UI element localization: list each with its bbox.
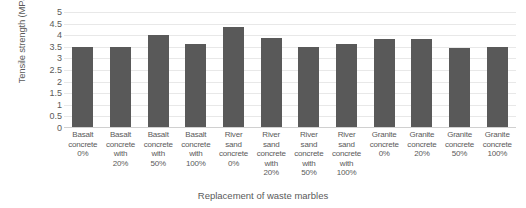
x-axis-category-line: River <box>290 130 328 140</box>
bar[interactable] <box>487 47 508 128</box>
x-axis-baseline <box>64 127 516 128</box>
y-axis-tick-label: 4.5 <box>36 19 62 28</box>
x-axis-category-line: 20% <box>252 168 290 178</box>
y-axis-tick-label: 3.5 <box>36 42 62 51</box>
x-axis-category-line: concrete <box>290 149 328 159</box>
bar-slot <box>441 12 479 128</box>
bar[interactable] <box>336 44 357 128</box>
x-axis-category-line: with <box>102 149 140 159</box>
x-axis-category-line: concrete <box>403 140 441 150</box>
bar[interactable] <box>110 47 131 128</box>
bar-slot <box>177 12 215 128</box>
x-axis-category-line: sand <box>215 140 253 150</box>
bar[interactable] <box>298 47 319 128</box>
tensile-strength-bar-chart: Tensile strength (MPa) 54.543.532.521.51… <box>0 0 526 208</box>
x-axis-category-line: concrete <box>139 140 177 150</box>
x-axis-category-line: 50% <box>139 159 177 169</box>
x-axis-category-line: concrete <box>215 149 253 159</box>
x-axis-category-line: with <box>290 159 328 169</box>
bar-slot <box>252 12 290 128</box>
x-axis-category-line: 50% <box>290 168 328 178</box>
x-axis-category-label: Basaltconcretewith20% <box>102 130 140 188</box>
bar[interactable] <box>223 27 244 128</box>
x-axis-category-line: 100% <box>478 149 516 159</box>
x-axis-category-line: 0% <box>64 149 102 159</box>
bar[interactable] <box>261 38 282 128</box>
x-axis-category-line: Granite <box>441 130 479 140</box>
bar-slot <box>64 12 102 128</box>
x-axis-category-line: concrete <box>328 149 366 159</box>
x-axis-category-label: Graniteconcrete100% <box>478 130 516 188</box>
bar-slot <box>215 12 253 128</box>
x-axis-category-label: Riversandconcretewith50% <box>290 130 328 188</box>
x-axis-category-line: with <box>177 149 215 159</box>
x-axis-category-line: concrete <box>102 140 140 150</box>
x-axis-category-line: sand <box>328 140 366 150</box>
x-axis-category-label: Riversandconcretewith100% <box>328 130 366 188</box>
bar-slot <box>102 12 140 128</box>
bar[interactable] <box>411 39 432 128</box>
x-axis-category-line: concrete <box>441 140 479 150</box>
bar[interactable] <box>374 39 395 128</box>
bar[interactable] <box>449 48 470 128</box>
y-axis-tick-label: 5 <box>36 8 62 17</box>
x-axis-category-line: concrete <box>365 140 403 150</box>
bar-series <box>64 12 516 128</box>
x-axis-category-line: Basalt <box>102 130 140 140</box>
x-axis-category-line: 100% <box>328 168 366 178</box>
x-axis-category-line: with <box>139 149 177 159</box>
bar[interactable] <box>72 47 93 128</box>
y-axis-tick-label: 4 <box>36 31 62 40</box>
x-axis-category-label: Riversandconcrete0% <box>215 130 253 188</box>
bar[interactable] <box>148 35 169 128</box>
x-axis-category-line: Basalt <box>177 130 215 140</box>
x-axis-category-line: sand <box>290 140 328 150</box>
x-axis-category-label: Riversandconcretewith20% <box>252 130 290 188</box>
bar[interactable] <box>185 44 206 128</box>
x-axis-category-line: River <box>252 130 290 140</box>
x-axis-category-label: Graniteconcrete50% <box>441 130 479 188</box>
x-axis-category-label: Basaltconcrete0% <box>64 130 102 188</box>
x-axis-title: Replacement of waste marbles <box>0 190 526 201</box>
x-axis-category-labels: Basaltconcrete0%Basaltconcretewith20%Bas… <box>64 130 516 188</box>
x-axis-category-line: concrete <box>64 140 102 150</box>
y-axis-title: Tensile strength (MPa) <box>17 0 27 98</box>
x-axis-category-line: Basalt <box>139 130 177 140</box>
x-axis-category-label: Basaltconcretewith100% <box>177 130 215 188</box>
x-axis-category-line: 0% <box>365 149 403 159</box>
x-axis-category-line: concrete <box>252 149 290 159</box>
bar-slot <box>365 12 403 128</box>
bar-slot <box>403 12 441 128</box>
x-axis-category-line: River <box>328 130 366 140</box>
x-axis-category-line: with <box>328 159 366 169</box>
plot-area <box>64 12 516 128</box>
x-axis-category-line: Basalt <box>64 130 102 140</box>
x-axis-category-line: 20% <box>102 159 140 169</box>
x-axis-category-line: 0% <box>215 159 253 169</box>
x-axis-category-line: with <box>252 159 290 169</box>
x-axis-category-line: River <box>215 130 253 140</box>
x-axis-category-line: concrete <box>177 140 215 150</box>
bar-slot <box>290 12 328 128</box>
y-axis-tick-labels: 54.543.532.521.510.50 <box>36 8 62 130</box>
x-axis-category-line: 50% <box>441 149 479 159</box>
y-axis-tick-label: 0.5 <box>36 112 62 121</box>
y-axis-tick-label: 2.5 <box>36 66 62 75</box>
x-axis-category-line: sand <box>252 140 290 150</box>
x-axis-category-line: Granite <box>403 130 441 140</box>
bar-slot <box>328 12 366 128</box>
y-axis-tick-label: 1 <box>36 100 62 109</box>
y-axis-tick-label: 3 <box>36 54 62 63</box>
x-axis-category-label: Basaltconcretewith50% <box>139 130 177 188</box>
x-axis-category-line: 100% <box>177 159 215 169</box>
x-axis-category-line: Granite <box>478 130 516 140</box>
x-axis-category-line: 20% <box>403 149 441 159</box>
x-axis-category-line: concrete <box>478 140 516 150</box>
y-axis-tick-label: 2 <box>36 77 62 86</box>
bar-slot <box>478 12 516 128</box>
y-axis-tick-label: 0 <box>36 124 62 133</box>
bar-slot <box>139 12 177 128</box>
y-axis-tick-label: 1.5 <box>36 89 62 98</box>
x-axis-category-label: Graniteconcrete0% <box>365 130 403 188</box>
x-axis-category-label: Graniteconcrete20% <box>403 130 441 188</box>
